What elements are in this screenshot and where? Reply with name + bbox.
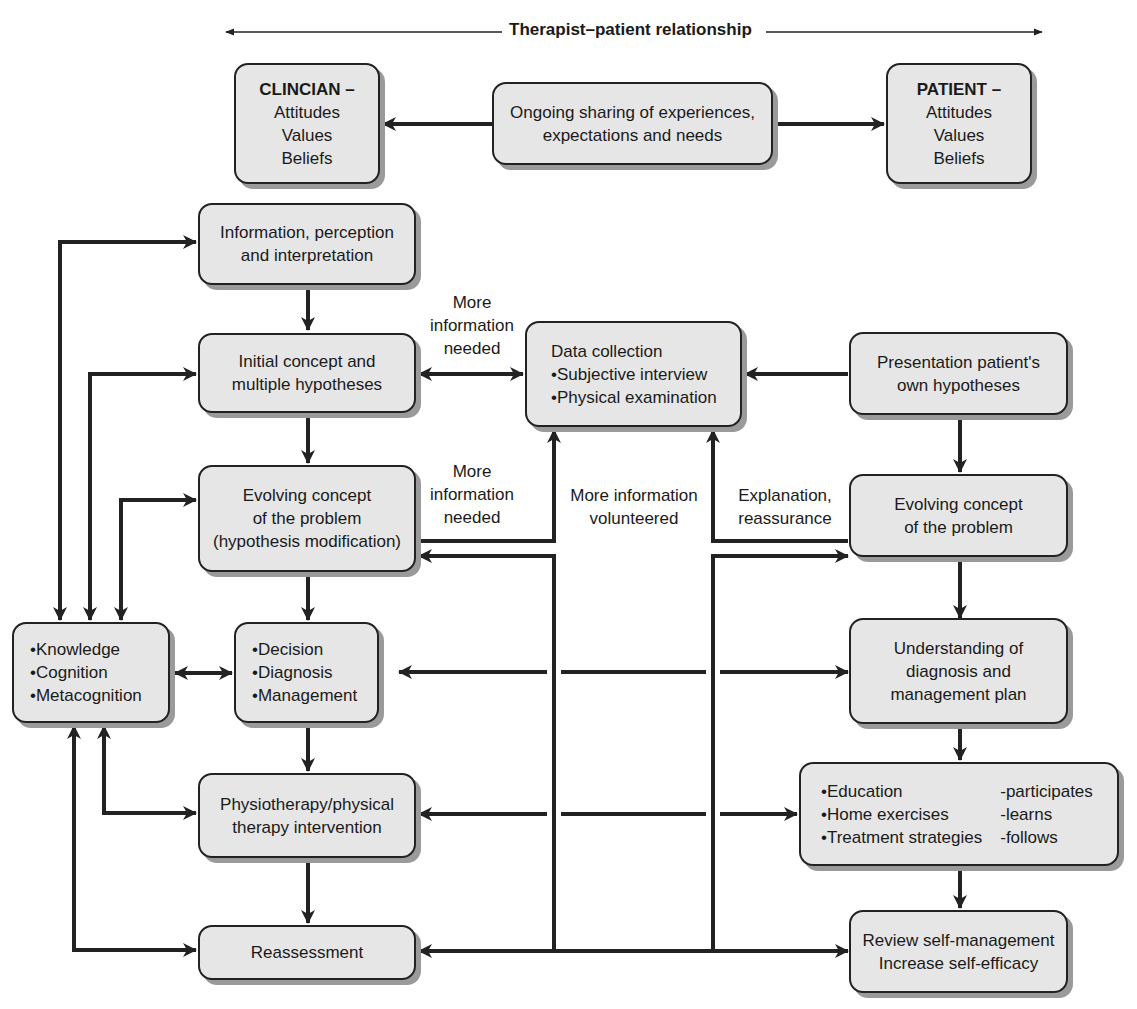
patient-box: PATIENT – Attitudes Values Beliefs <box>886 63 1032 184</box>
activity-action: -follows <box>1000 826 1093 849</box>
edge-label-more-info-needed-2: More information needed <box>424 460 520 529</box>
evolving-concept-clinician-box: Evolving concept of the problem (hypothe… <box>198 465 416 572</box>
clinician-box: CLINCIAN – Attitudes Values Beliefs <box>234 63 380 184</box>
sharing-line: expectations and needs <box>543 124 723 147</box>
patient-activities-box: •Education •Home exercises •Treatment st… <box>799 762 1119 866</box>
clinical-reasoning-diagram: Therapist–patient relationship CLINCIAN … <box>0 0 1137 1009</box>
edge-label-line: More <box>424 460 520 483</box>
evolving-concept-line: Evolving concept <box>243 484 372 507</box>
relationship-title: Therapist–patient relationship <box>503 20 758 40</box>
clinician-line: Beliefs <box>281 147 332 170</box>
intervention-line: Physiotherapy/physical <box>220 793 394 816</box>
edge-label-line: needed <box>424 506 520 529</box>
edge-label-line: information <box>424 314 520 337</box>
patient-line: Attitudes <box>926 101 992 124</box>
sharing-box: Ongoing sharing of experiences, expectat… <box>492 82 773 165</box>
presentation-box: Presentation patient's own hypotheses <box>849 332 1068 415</box>
evolving-concept-line: of the problem <box>253 507 362 530</box>
evolving-concept-line: (hypothesis modification) <box>213 530 401 553</box>
understanding-line: Understanding of <box>894 637 1023 660</box>
information-line: and interpretation <box>241 244 373 267</box>
edge-label-line: volunteered <box>561 507 707 530</box>
evolving-concept-line: of the problem <box>904 516 1013 539</box>
knowledge-item: •Cognition <box>30 661 108 684</box>
clinician-line: Attitudes <box>274 101 340 124</box>
initial-concept-line: multiple hypotheses <box>232 373 382 396</box>
edge-label-line: needed <box>424 337 520 360</box>
evolving-concept-line: Evolving concept <box>894 493 1023 516</box>
edge-label-more-info-needed: More information needed <box>424 291 520 360</box>
presentation-line: own hypotheses <box>897 374 1020 397</box>
review-box: Review self-management Increase self-eff… <box>849 910 1068 993</box>
activity-action: -participates <box>1000 780 1093 803</box>
review-line: Increase self-efficacy <box>879 952 1038 975</box>
edge-label-line: Explanation, <box>726 484 844 507</box>
patient-line: Values <box>934 124 985 147</box>
evolving-concept-patient-box: Evolving concept of the problem <box>849 474 1068 557</box>
decision-box: •Decision •Diagnosis •Management <box>234 622 379 723</box>
edge-label-line: reassurance <box>726 507 844 530</box>
data-collection-box: Data collection •Subjective interview •P… <box>525 321 742 427</box>
intervention-line: therapy intervention <box>232 816 381 839</box>
edge-label-line: More information <box>561 484 707 507</box>
reassessment-box: Reassessment <box>198 925 416 980</box>
patient-line: Beliefs <box>933 147 984 170</box>
review-line: Review self-management <box>863 929 1055 952</box>
activity-item: •Education <box>821 780 982 803</box>
decision-item: •Decision <box>252 638 323 661</box>
edge-label-line: information <box>424 483 520 506</box>
understanding-box: Understanding of diagnosis and managemen… <box>849 618 1068 724</box>
understanding-line: management plan <box>890 683 1026 706</box>
decision-item: •Diagnosis <box>252 661 333 684</box>
edge-label-line: More <box>424 291 520 314</box>
reassessment-label: Reassessment <box>251 941 363 964</box>
data-collection-item: •Physical examination <box>551 386 717 409</box>
sharing-line: Ongoing sharing of experiences, <box>510 101 755 124</box>
patient-title: PATIENT – <box>917 78 1001 101</box>
decision-item: •Management <box>252 684 357 707</box>
clinician-line: Values <box>282 124 333 147</box>
activity-item: •Treatment strategies <box>821 826 982 849</box>
activity-item: •Home exercises <box>821 803 982 826</box>
activity-action: -learns <box>1000 803 1093 826</box>
edge-label-more-info-volunteered: More information volunteered <box>561 484 707 530</box>
knowledge-box: •Knowledge •Cognition •Metacognition <box>12 622 170 723</box>
clinician-title: CLINCIAN – <box>259 78 354 101</box>
data-collection-item: •Subjective interview <box>551 363 707 386</box>
knowledge-item: •Knowledge <box>30 638 120 661</box>
initial-concept-line: Initial concept and <box>238 350 375 373</box>
understanding-line: diagnosis and <box>906 660 1011 683</box>
presentation-line: Presentation patient's <box>877 351 1040 374</box>
knowledge-item: •Metacognition <box>30 684 142 707</box>
information-line: Information, perception <box>220 221 394 244</box>
intervention-box: Physiotherapy/physical therapy intervent… <box>198 773 416 858</box>
initial-concept-box: Initial concept and multiple hypotheses <box>198 333 416 413</box>
data-collection-title: Data collection <box>551 340 663 363</box>
edge-label-explanation: Explanation, reassurance <box>726 484 844 530</box>
information-box: Information, perception and interpretati… <box>198 203 416 285</box>
